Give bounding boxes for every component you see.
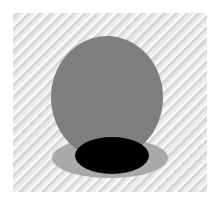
- scene-panel: [13, 13, 207, 192]
- image-canvas: [0, 0, 219, 205]
- contact-shadow-ellipse: [75, 137, 149, 174]
